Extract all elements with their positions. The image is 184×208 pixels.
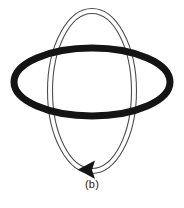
vertical-ring-inner-outline [53, 14, 132, 169]
vertical-ring-group [48, 9, 137, 174]
figure-caption: (b) [0, 178, 184, 191]
horizontal-ring [14, 48, 170, 116]
horizontal-ring-group [14, 48, 170, 116]
interlocking-rings-diagram [0, 0, 184, 184]
vertical-ring-tube-fill [50, 11, 134, 171]
figure-container: (b) [0, 0, 184, 208]
